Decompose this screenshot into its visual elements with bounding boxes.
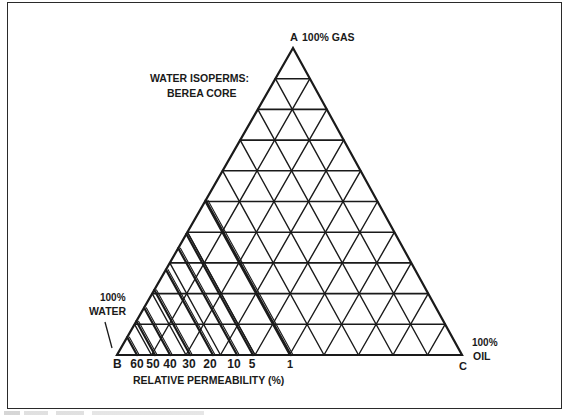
- vertex-b-label-line2: WATER: [89, 305, 127, 317]
- vertex-c-label-line2: OIL: [473, 350, 491, 362]
- vertex-b-label-line1: 100%: [100, 292, 126, 303]
- vertex-a-label: 100% GAS: [302, 31, 355, 43]
- isoperm-line: [206, 200, 291, 355]
- isoperm-labels: 60504030201051: [130, 357, 293, 371]
- gridline-diagonal-left: [428, 324, 446, 355]
- isoperm-label: 10: [227, 357, 241, 371]
- gridline-diagonal-left: [290, 202, 378, 356]
- gridline-diagonal-right: [205, 202, 290, 356]
- isoperm-label: 60: [130, 357, 144, 371]
- figure-caption-cropped: [4, 411, 204, 415]
- vertex-a-letter: A: [290, 31, 298, 43]
- isoperm-label: 50: [146, 357, 160, 371]
- axis-title: RELATIVE PERMEABILITY (%): [133, 374, 284, 386]
- vertex-c-label-line1: 100%: [472, 337, 498, 348]
- isoperm-line: [136, 321, 155, 355]
- diagram-subtitle: BEREA CORE: [167, 87, 237, 99]
- isoperm-line: [166, 270, 213, 355]
- isoperm-line: [127, 337, 137, 355]
- isoperm-label: 1: [287, 358, 293, 370]
- diagram-title: WATER ISOPERMS:: [150, 72, 249, 84]
- isoperm-line: [178, 248, 237, 355]
- vertex-b-pointer: [105, 322, 112, 348]
- isoperm-label: 5: [249, 357, 256, 371]
- gridline-diagonal-left: [221, 140, 344, 355]
- isoperm-line-secondary: [208, 200, 293, 355]
- isoperm-line-secondary: [180, 248, 239, 355]
- isoperm-label: 30: [182, 357, 196, 371]
- vertex-b-letter: B: [113, 357, 122, 371]
- vertex-c-letter: C: [459, 360, 467, 372]
- ternary-diagram: A 100% GAS WATER ISOPERMS: BEREA CORE 10…: [0, 0, 569, 415]
- gridline-diagonal-right: [240, 140, 358, 355]
- gridline-diagonal-right: [275, 79, 427, 355]
- isoperm-label: 40: [163, 357, 177, 371]
- isoperm-label: 20: [203, 357, 217, 371]
- isoperm-line-secondary: [157, 290, 193, 355]
